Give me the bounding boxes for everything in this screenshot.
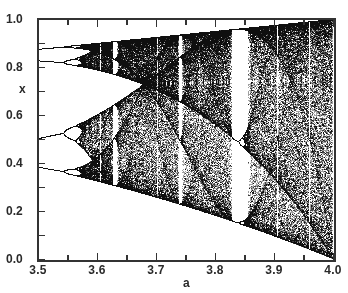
x-tick bbox=[244, 255, 246, 260]
x-tick-label: 4.0 bbox=[324, 263, 341, 277]
x-tick-label: 3.5 bbox=[29, 263, 46, 277]
y-tick-label: 0.2 bbox=[6, 204, 23, 218]
y-tick bbox=[39, 211, 45, 213]
x-tick bbox=[126, 20, 128, 25]
x-tick bbox=[215, 253, 217, 260]
x-tick-label: 3.9 bbox=[265, 263, 282, 277]
x-tick-label: 3.8 bbox=[206, 263, 223, 277]
y-tick-label: 0.6 bbox=[6, 108, 23, 122]
x-tick bbox=[333, 20, 335, 27]
x-tick bbox=[126, 255, 128, 260]
x-tick bbox=[185, 255, 187, 260]
y-tick bbox=[39, 43, 45, 45]
x-tick bbox=[274, 20, 276, 27]
x-tick bbox=[274, 253, 276, 260]
x-tick bbox=[38, 20, 40, 27]
x-axis-title: a bbox=[183, 276, 190, 290]
x-tick bbox=[244, 20, 246, 25]
x-tick-label: 3.7 bbox=[147, 263, 164, 277]
y-tick bbox=[39, 19, 45, 21]
x-tick bbox=[303, 20, 305, 25]
x-tick bbox=[67, 255, 69, 260]
y-tick-label: 0.8 bbox=[6, 60, 23, 74]
x-tick bbox=[185, 20, 187, 25]
x-tick bbox=[303, 255, 305, 260]
x-tick-label: 3.6 bbox=[88, 263, 105, 277]
y-tick bbox=[39, 235, 45, 237]
y-tick-label: 0.4 bbox=[6, 156, 23, 170]
y-tick-label: 1.0 bbox=[6, 12, 23, 26]
y-tick bbox=[39, 163, 45, 165]
y-tick bbox=[39, 115, 45, 117]
x-tick bbox=[215, 20, 217, 27]
x-tick bbox=[97, 253, 99, 260]
y-axis-title: x bbox=[19, 82, 26, 96]
y-tick-label: 0.0 bbox=[6, 252, 23, 266]
x-tick bbox=[156, 20, 158, 27]
y-tick bbox=[39, 259, 45, 261]
bifurcation-plot-area bbox=[38, 19, 333, 259]
x-tick bbox=[97, 20, 99, 27]
y-tick bbox=[39, 67, 45, 69]
x-tick bbox=[333, 253, 335, 260]
y-tick bbox=[39, 91, 45, 93]
x-tick bbox=[156, 253, 158, 260]
y-tick bbox=[39, 139, 45, 141]
y-tick bbox=[39, 187, 45, 189]
x-tick bbox=[67, 20, 69, 25]
